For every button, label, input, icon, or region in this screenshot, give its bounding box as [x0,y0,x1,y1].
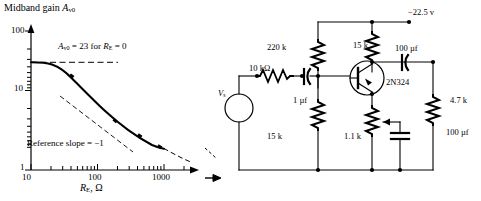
y-tick-label-10: 10 [14,83,23,93]
resistor-4.7k-label: 4.7 k [450,95,467,105]
source-branch-wire [225,76,257,170]
x-axis-title: RE, Ω [80,182,103,193]
resistor-15k-collector [366,32,378,72]
chart-title: Midband gain Av0 [4,2,75,13]
stray-arrow-mark [205,148,221,182]
reference-slope-label: Reference slope = −1 [27,138,104,148]
gain-curve [31,62,164,149]
curve-dashed-tail [164,149,192,163]
resistor-10k-label: 10 kΩ [249,63,270,73]
x-tick-label-10: 10 [22,172,31,182]
transistor-label: 2N324 [386,77,409,87]
supply-voltage-label: −22.5 v [408,7,434,17]
capacitor-1uf-label: 1 µf [293,95,307,105]
transistor-2n324 [350,61,384,106]
resistor-15k-bias-lower [312,76,324,170]
resistor-15k-bias-label: 15 k [267,131,282,141]
resistor-15k-collector-label: 15 k [353,40,368,50]
amplifier-circuit-diagram: −22.5 v 220 k 15 k 100 µf 10 kΩ 1 µf 15 … [205,0,481,201]
x-axis-ticks [31,164,184,170]
gain-annotation-label: Av0 = 23 for RE = 0 [58,41,127,51]
x-tick-label-1000: 1000 [152,172,170,182]
source-label: Vs [218,88,225,98]
y-tick-label-100: 100 [11,25,25,35]
supply-rail-wire [318,22,409,40]
potentiometer-1.1k-label: 1.1 k [344,131,361,141]
resistor-220k-label: 220 k [267,42,286,52]
midband-gain-chart: Midband gain Av0 100 10 1 10 100 1000 RE… [0,0,205,201]
capacitor-100uf-emitter-bypass [391,133,409,170]
x-tick-label-100: 100 [88,172,102,182]
resistor-4.7k-load [427,95,439,170]
circuit-canvas [205,0,481,201]
y-axis-ticks [25,31,31,170]
chart-canvas [0,0,205,201]
figure-root: Midband gain Av0 100 10 1 10 100 1000 RE… [0,0,481,201]
y-tick-label-1: 1 [20,162,25,172]
capacitor-1uf-input [304,69,350,84]
capacitor-100uf-bypass-label: 100 µf [446,127,469,137]
capacitor-100uf-output-label: 100 µf [395,43,418,53]
